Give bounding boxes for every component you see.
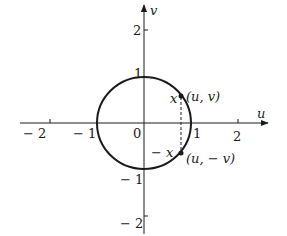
v-tick-label-minus-1: − 1	[120, 172, 143, 187]
v-tick-label-minus-2: − 2	[120, 216, 143, 231]
point-u-minus-v	[179, 151, 184, 156]
u-tick-label-1: 1	[193, 126, 201, 141]
point-u-minus-v-side-label: − x	[151, 145, 174, 160]
point-u-v-side-label: x	[170, 91, 178, 106]
v-tick-label-1: 1	[134, 66, 142, 81]
u-tick-label-2: 2	[233, 129, 241, 144]
origin-label: 0	[133, 126, 141, 141]
point-u-v-label: (u, v)	[186, 89, 220, 104]
unit-circle-diagram: u v 0 − 2 − 1 1 2 2 1 − 1 − 2 (u, v) x (…	[0, 0, 287, 236]
u-axis-label: u	[257, 106, 265, 121]
v-axis-label: v	[150, 3, 158, 18]
u-tick-label-minus-1: − 1	[73, 126, 96, 141]
u-tick-label-minus-2: − 2	[23, 126, 46, 141]
point-u-v	[179, 94, 184, 99]
point-u-minus-v-label: (u, − v)	[186, 151, 235, 166]
v-tick-label-2: 2	[133, 23, 141, 38]
